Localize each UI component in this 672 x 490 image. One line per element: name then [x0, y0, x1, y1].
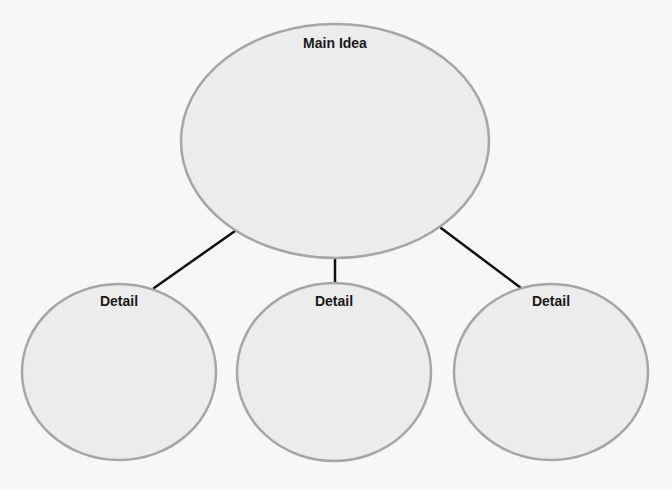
detail-node-left	[22, 284, 216, 460]
detail-left-label: Detail	[100, 293, 138, 309]
concept-map-graphic	[0, 0, 672, 490]
main-idea-node	[181, 24, 489, 258]
main-idea-label: Main Idea	[303, 35, 367, 51]
detail-node-middle	[237, 283, 431, 461]
detail-middle-label: Detail	[315, 293, 353, 309]
connector-main-to-detail-right	[441, 228, 521, 288]
detail-node-right	[454, 284, 648, 460]
connector-main-to-detail-left	[154, 231, 235, 288]
concept-map-canvas: Main Idea Detail Detail Detail	[0, 0, 672, 490]
detail-right-label: Detail	[532, 293, 570, 309]
